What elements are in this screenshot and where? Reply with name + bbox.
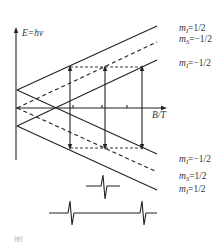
label-upper-mI-minus: mI=−1/2 <box>179 59 211 70</box>
label-upper-mI-plus: mI=1/2 <box>179 24 206 35</box>
level-upper-mS-dashed <box>17 42 157 108</box>
level-upper-mI-minus <box>17 60 157 126</box>
level-lower-mI-plus <box>17 126 157 190</box>
label-lower-mI-minus: mI=−1/2 <box>179 155 211 166</box>
signal-single <box>86 175 120 199</box>
level-lower-mS-dashed <box>17 108 157 172</box>
figure-caption: 图 <box>14 236 214 242</box>
label-upper-mS: mS=−1/2 <box>179 35 212 46</box>
signal-doublet <box>49 201 157 225</box>
x-axis-label: B/T <box>152 111 166 121</box>
label-lower-mS: mS=1/2 <box>179 172 207 183</box>
label-lower-mI-plus: mI=1/2 <box>179 185 206 196</box>
y-axis-label: E=hν <box>22 29 43 39</box>
level-lower-mI-minus <box>17 90 157 154</box>
